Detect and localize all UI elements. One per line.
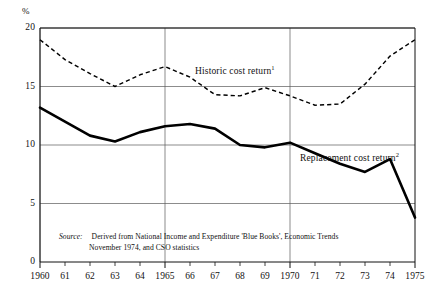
y-axis-tick-20: 20 [13, 22, 35, 32]
y-axis-tick-5: 5 [13, 198, 35, 208]
y-axis-tick-15: 15 [13, 81, 35, 91]
annotation-replacement-cost-return: Replacement cost return2 [300, 151, 399, 163]
y-axis-tick-10: 10 [13, 139, 35, 149]
x-axis-tick-1975: 1975 [400, 271, 430, 281]
source-text-line-1: Derived from National Income and Expendi… [92, 232, 339, 241]
source-note-line-1: Source: Derived from National Income and… [59, 231, 338, 242]
source-label: Source: [59, 232, 83, 241]
y-axis-tick-0: 0 [13, 256, 35, 266]
source-note: Source: Derived from National Income and… [59, 231, 338, 253]
x-axis-tick-marks [40, 262, 415, 268]
annotation-historic-cost-return: Historic cost return1 [195, 64, 275, 76]
gridlines [40, 28, 415, 262]
source-note-line-2: November 1974, and CSO statistics [59, 242, 338, 253]
source-text-line-2: November 1974, and CSO statistics [89, 243, 199, 252]
chart-container: % 05101520 19606162636419656667686919707… [0, 0, 441, 295]
